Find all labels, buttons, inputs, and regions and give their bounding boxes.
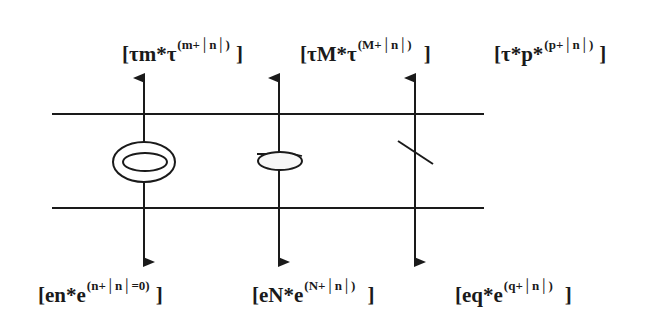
bottom-label-1: [en*e(n+│n│=0)] (38, 285, 163, 306)
bottom-label-1-exponent: (n+│n│=0) (87, 278, 150, 293)
column-2 (257, 78, 302, 262)
top-label-2-exponent: (M+│n│) (358, 37, 412, 52)
top-label-1: [τm*τ(m+│n│)] (122, 44, 243, 65)
bottom-label-2-close: ] (367, 283, 374, 307)
top-label-3-exponent: (p+│n│) (544, 37, 593, 52)
bottom-label-3-close: ] (565, 283, 572, 307)
bottom-label-2: [eN*e(N+│n│)] (252, 285, 374, 306)
top-label-2-base: [τM*τ (300, 42, 357, 66)
top-label-3: [τ*p*(p+│n│)] (494, 44, 606, 65)
bottom-label-3-exponent: (q+│n│) (504, 278, 553, 293)
bottom-label-2-exponent: (N+│n│) (304, 278, 355, 293)
top-label-2-close: ] (424, 42, 431, 66)
top-label-1-base: [τm*τ (122, 42, 176, 66)
bottom-label-3-base: [eq*e (455, 283, 503, 307)
inner-ellipse (123, 153, 167, 171)
top-label-1-exponent: (m+│n│) (177, 37, 230, 52)
column-1 (113, 78, 175, 262)
bottom-label-2-base: [eN*e (252, 283, 303, 307)
bottom-label-1-close: ] (156, 283, 163, 307)
top-label-3-base: [τ*p* (494, 42, 543, 66)
top-label-3-close: ] (599, 42, 606, 66)
bottom-label-3: [eq*e(q+│n│)] (455, 285, 572, 306)
top-label-1-close: ] (236, 42, 243, 66)
column-3 (398, 78, 433, 262)
top-label-2: [τM*τ(M+│n│)] (300, 44, 431, 65)
bottom-label-1-base: [en*e (38, 283, 86, 307)
